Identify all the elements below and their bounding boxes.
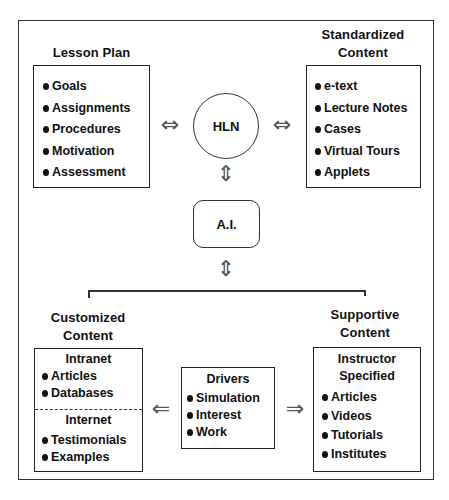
drivers-list: Simulation Interest Work bbox=[187, 390, 274, 441]
list-item: e-text bbox=[315, 76, 420, 98]
intranet-section: Intranet Articles Databases bbox=[35, 349, 142, 409]
supportive-content-box: Instructor Specified Articles Videos Tut… bbox=[313, 347, 421, 472]
bullet-icon bbox=[187, 395, 193, 402]
hln-hub: HLN bbox=[193, 93, 259, 159]
standardized-content-box: e-text Lecture Notes Cases Virtual Tours… bbox=[306, 65, 421, 188]
list-item: Testimonials bbox=[42, 432, 142, 449]
list-item: Interest bbox=[187, 407, 274, 424]
list-item: Articles bbox=[42, 368, 142, 385]
internet-section: Internet Testimonials Examples bbox=[35, 410, 142, 466]
list-item: Videos bbox=[322, 407, 420, 426]
bullet-icon bbox=[315, 148, 321, 155]
customized-content-title: Customized Content bbox=[33, 309, 143, 345]
lesson-plan-list: Goals Assignments Procedures Motivation … bbox=[43, 76, 149, 184]
list-item: Simulation bbox=[187, 390, 274, 407]
list-item: Virtual Tours bbox=[315, 141, 420, 163]
drivers-box: Drivers Simulation Interest Work bbox=[181, 367, 275, 449]
ai-node: A.I. bbox=[193, 200, 260, 248]
drivers-title: Drivers bbox=[187, 371, 274, 388]
bullet-icon bbox=[322, 432, 328, 439]
bullet-icon bbox=[42, 390, 48, 397]
bullet-icon bbox=[43, 126, 49, 133]
bullet-icon bbox=[43, 148, 49, 155]
bullet-icon bbox=[322, 451, 328, 458]
bullet-icon bbox=[322, 394, 328, 401]
list-item: Motivation bbox=[43, 141, 149, 163]
list-item: Examples bbox=[42, 449, 142, 466]
vertical-bidirectional-arrow-icon: ⇕ bbox=[211, 163, 241, 185]
bullet-icon bbox=[315, 169, 321, 176]
vertical-bidirectional-arrow-icon: ⇕ bbox=[211, 258, 241, 280]
list-item: Applets bbox=[315, 162, 420, 184]
supportive-content-list: Articles Videos Tutorials Institutes bbox=[322, 388, 420, 464]
bullet-icon bbox=[187, 412, 193, 419]
hln-label: HLN bbox=[213, 119, 240, 134]
list-item: Cases bbox=[315, 119, 420, 141]
bidirectional-arrow-icon: ⇔ bbox=[267, 114, 297, 136]
bullet-icon bbox=[187, 429, 193, 436]
standardized-content-title: Standardized Content bbox=[300, 26, 426, 62]
customized-content-box: Intranet Articles Databases Internet Tes… bbox=[34, 348, 143, 472]
bullet-icon bbox=[315, 126, 321, 133]
bullet-icon bbox=[43, 169, 49, 176]
bullet-icon bbox=[42, 454, 48, 461]
list-item: Procedures bbox=[43, 119, 149, 141]
right-arrow-icon: ⇒ bbox=[281, 398, 309, 420]
list-item: Goals bbox=[43, 76, 149, 98]
list-item: Institutes bbox=[322, 445, 420, 464]
intranet-list: Articles Databases bbox=[42, 368, 142, 402]
list-item: Assessment bbox=[43, 162, 149, 184]
bracket-right-tick bbox=[364, 290, 366, 296]
left-arrow-icon: ⇐ bbox=[147, 398, 175, 420]
supportive-content-title: Supportive Content bbox=[305, 306, 425, 342]
bullet-icon bbox=[43, 105, 49, 112]
internet-title: Internet bbox=[42, 412, 142, 429]
bracket-horizontal-line bbox=[88, 290, 365, 292]
bullet-icon bbox=[322, 413, 328, 420]
list-item: Tutorials bbox=[322, 426, 420, 445]
lesson-plan-box: Goals Assignments Procedures Motivation … bbox=[33, 65, 150, 188]
bullet-icon bbox=[42, 437, 48, 444]
intranet-title: Intranet bbox=[42, 351, 142, 368]
list-item: Articles bbox=[322, 388, 420, 407]
list-item: Assignments bbox=[43, 98, 149, 120]
bullet-icon bbox=[315, 83, 321, 90]
bullet-icon bbox=[315, 105, 321, 112]
list-item: Lecture Notes bbox=[315, 98, 420, 120]
ai-label: A.I. bbox=[216, 217, 236, 232]
bullet-icon bbox=[42, 373, 48, 380]
bullet-icon bbox=[43, 83, 49, 90]
list-item: Work bbox=[187, 424, 274, 441]
lesson-plan-title: Lesson Plan bbox=[33, 44, 150, 62]
bracket-left-tick bbox=[88, 290, 90, 298]
instructor-specified-title: Instructor Specified bbox=[322, 351, 420, 385]
bidirectional-arrow-icon: ⇔ bbox=[155, 114, 185, 136]
list-item: Databases bbox=[42, 385, 142, 402]
standardized-content-list: e-text Lecture Notes Cases Virtual Tours… bbox=[315, 76, 420, 184]
internet-list: Testimonials Examples bbox=[42, 432, 142, 466]
